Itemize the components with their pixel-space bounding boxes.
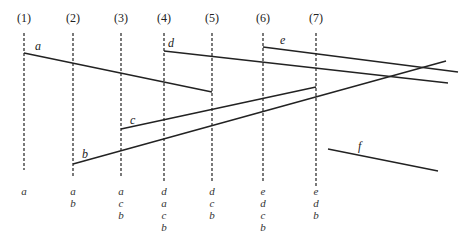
sweep-line-label: (5) bbox=[205, 11, 219, 25]
status-stack-entry: a bbox=[161, 197, 167, 209]
status-stack-entry: a bbox=[118, 185, 124, 197]
status-stack-entry: b bbox=[260, 221, 266, 233]
status-stack-entry: a bbox=[21, 185, 27, 197]
segment-label: f bbox=[358, 139, 363, 153]
segment-label: a bbox=[35, 39, 41, 53]
sweep-line-diagram: (1)a(2)ab(3)acb(4)dacb(5)dcb(6)edcb(7)ed… bbox=[0, 0, 470, 250]
segment-line bbox=[263, 47, 458, 72]
segment-line bbox=[164, 51, 448, 83]
segment-d: d bbox=[164, 36, 448, 83]
sweep-line-2: (2)ab bbox=[66, 11, 80, 209]
sweep-line-label: (4) bbox=[157, 11, 171, 25]
status-stack-entry: b bbox=[118, 209, 124, 221]
sweep-line-label: (7) bbox=[309, 11, 323, 25]
segments-group: abcdef bbox=[24, 33, 458, 171]
sweep-line-label: (1) bbox=[17, 11, 31, 25]
status-stack-entry: d bbox=[260, 197, 266, 209]
segment-line bbox=[121, 87, 316, 129]
segment-label: b bbox=[82, 147, 88, 161]
status-stack-entry: a bbox=[70, 185, 76, 197]
status-stack-entry: e bbox=[314, 185, 319, 197]
status-stack-entry: b bbox=[161, 221, 167, 233]
status-stack-entry: c bbox=[119, 197, 124, 209]
segment-a: a bbox=[24, 39, 212, 92]
status-stack-entry: e bbox=[261, 185, 266, 197]
status-stack-entry: d bbox=[161, 185, 167, 197]
status-stack-entry: c bbox=[162, 209, 167, 221]
segment-label: d bbox=[168, 36, 175, 50]
segment-f: f bbox=[328, 139, 438, 171]
sweep-line-3: (3)acb bbox=[114, 11, 128, 221]
status-stack-entry: c bbox=[261, 209, 266, 221]
status-stack-entry: b bbox=[313, 209, 319, 221]
sweep-line-7: (7)edb bbox=[309, 11, 323, 221]
segment-c: c bbox=[121, 87, 316, 129]
sweep-line-1: (1)a bbox=[17, 11, 31, 197]
sweep-line-6: (6)edcb bbox=[256, 11, 270, 233]
sweep-line-label: (6) bbox=[256, 11, 270, 25]
segment-label: e bbox=[280, 33, 286, 47]
status-stack-entry: c bbox=[210, 197, 215, 209]
status-stack-entry: d bbox=[209, 185, 215, 197]
status-stack-entry: b bbox=[209, 209, 215, 221]
segment-line bbox=[24, 53, 212, 92]
status-stack-entry: d bbox=[313, 197, 319, 209]
segment-label: c bbox=[130, 113, 136, 127]
sweep-line-label: (3) bbox=[114, 11, 128, 25]
sweep-line-label: (2) bbox=[66, 11, 80, 25]
segment-line bbox=[328, 149, 438, 171]
status-stack-entry: b bbox=[70, 197, 76, 209]
sweep-line-5: (5)dcb bbox=[205, 11, 219, 221]
